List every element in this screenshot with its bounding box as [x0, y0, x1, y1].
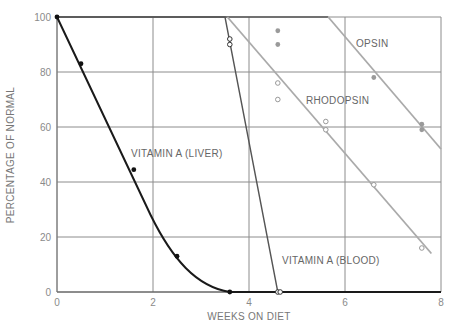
- data-point: [278, 290, 283, 295]
- y-axis-label: PERCENTAGE OF NORMAL: [5, 87, 16, 224]
- data-point: [55, 15, 60, 20]
- y-tick-label: 80: [40, 67, 52, 78]
- data-point: [324, 119, 329, 124]
- y-tick-label: 60: [40, 122, 52, 133]
- chart-canvas: 02468020406080100 WEEKS ON DIET PERCENTA…: [0, 0, 453, 328]
- x-axis-label: WEEKS ON DIET: [207, 311, 290, 322]
- x-tick-label: 2: [150, 297, 156, 308]
- x-tick-label: 8: [438, 297, 444, 308]
- data-point: [371, 75, 376, 80]
- data-point: [276, 81, 281, 86]
- series-label-opsin: OPSIN: [356, 38, 389, 49]
- data-point: [419, 122, 424, 127]
- data-point: [324, 127, 329, 132]
- data-point: [228, 37, 233, 42]
- series-label-blood: VITAMIN A (BLOOD): [282, 255, 380, 266]
- data-point: [275, 42, 280, 47]
- y-tick-label: 40: [40, 177, 52, 188]
- y-tick-label: 20: [40, 232, 52, 243]
- y-tick-label: 0: [45, 287, 51, 298]
- series-label-liver: VITAMIN A (LIVER): [131, 148, 223, 159]
- x-tick-label: 0: [54, 297, 60, 308]
- series-label-rhodopsin: RHODOPSIN: [306, 95, 369, 106]
- data-point: [276, 97, 281, 102]
- data-point: [420, 246, 425, 251]
- data-point: [175, 254, 180, 259]
- x-tick-label: 6: [342, 297, 348, 308]
- data-markers: [55, 15, 425, 295]
- y-tick-label: 100: [34, 12, 51, 23]
- data-point: [419, 127, 424, 132]
- grid-lines: [57, 17, 441, 292]
- axes: 02468020406080100: [34, 12, 444, 308]
- data-point: [131, 167, 136, 172]
- series-line: [227, 17, 431, 254]
- data-point: [79, 61, 84, 66]
- x-tick-label: 4: [246, 297, 252, 308]
- data-point: [372, 182, 377, 187]
- data-point: [228, 42, 233, 47]
- data-point: [275, 28, 280, 33]
- data-point: [227, 290, 232, 295]
